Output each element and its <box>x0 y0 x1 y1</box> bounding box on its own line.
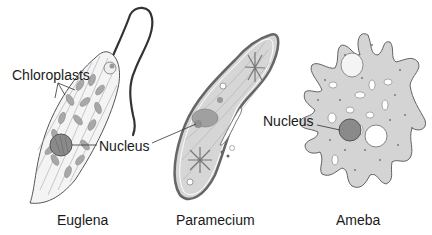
ameba-nucleus <box>339 119 361 141</box>
ameba-nucleus-label: Nucleus <box>263 114 314 128</box>
euglena-nucleus-label: Nucleus <box>99 139 150 153</box>
chloroplasts-label: Chloroplasts <box>12 68 90 82</box>
euglena-nucleus <box>50 134 72 156</box>
euglena-caption: Euglena <box>57 213 108 227</box>
ameba-body <box>300 34 426 188</box>
euglena-illustration <box>30 8 152 203</box>
ameba-illustration <box>300 34 426 188</box>
paramecium-illustration <box>152 34 278 199</box>
protist-diagram: Chloroplasts Nucleus Nucleus Euglena Par… <box>0 0 432 235</box>
paramecium-caption: Paramecium <box>176 213 255 227</box>
ameba-caption: Ameba <box>336 213 380 227</box>
